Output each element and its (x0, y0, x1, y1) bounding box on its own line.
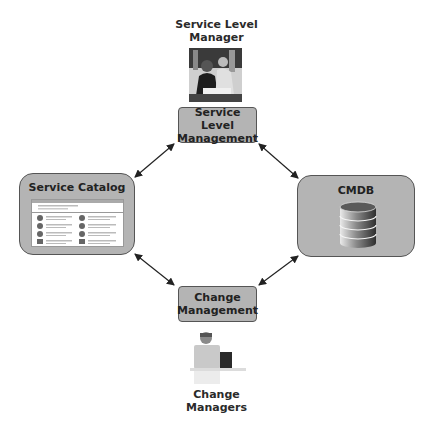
role-label-line1: Service Level (160, 18, 273, 31)
arrow-slm-cmdb (259, 144, 298, 178)
service-catalog-title: Service Catalog (20, 181, 134, 194)
cmdb-node[interactable]: CMDB (297, 175, 415, 257)
service-level-manager-label: Service Level Manager (160, 18, 273, 44)
node-label-line2: Management (177, 132, 258, 145)
arrow-change-cmdb (259, 256, 298, 285)
role-label-line2: Managers (160, 401, 273, 414)
node-label-line2: Management (177, 304, 258, 317)
service-catalog-node[interactable]: Service Catalog (19, 173, 135, 255)
change-managers-label: Change Managers (160, 388, 273, 414)
change-management-node[interactable]: Change Management (178, 286, 257, 322)
node-label-line1: Service Level (177, 106, 258, 132)
people-meeting-photo-icon (189, 48, 242, 102)
arrow-change-catalog (135, 254, 174, 285)
cmdb-title: CMDB (298, 184, 414, 197)
role-label-line2: Manager (160, 31, 273, 44)
node-label-line1: Change (177, 291, 258, 304)
arrow-slm-catalog (135, 144, 174, 177)
person-at-laptop-photo-icon (190, 330, 246, 384)
role-label-line1: Change (160, 388, 273, 401)
database-icon (338, 201, 378, 249)
service-level-management-node[interactable]: Service Level Management (178, 107, 257, 143)
catalog-screenshot-icon (31, 199, 124, 247)
